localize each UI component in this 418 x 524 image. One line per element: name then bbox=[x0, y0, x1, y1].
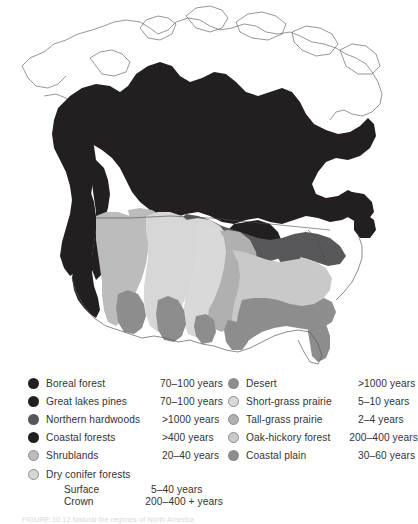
legend-value: >1000 years bbox=[162, 414, 219, 425]
legend-label: Shrublands bbox=[46, 450, 162, 461]
legend-label: Northern hardwoods bbox=[46, 414, 162, 425]
legend-label: Great lakes pines bbox=[46, 396, 160, 407]
legend-item: Great lakes pines 70–100 years bbox=[28, 392, 223, 410]
legend-swatch-shrublands bbox=[28, 450, 39, 461]
legend-value: 70–100 years bbox=[160, 396, 223, 407]
legend-label: Coastal plain bbox=[246, 450, 358, 461]
legend-value: >400 years bbox=[162, 432, 214, 443]
legend-item: Boreal forest 70–100 years bbox=[28, 374, 223, 392]
legend-value: 70–100 years bbox=[160, 378, 223, 389]
legend-item: Short-grass prairie 5–10 years bbox=[228, 392, 418, 410]
legend-sub-item: Crown 200–400 + years bbox=[28, 496, 223, 509]
legend-label: Coastal forests bbox=[46, 432, 162, 443]
legend-value: 2–4 years bbox=[358, 414, 404, 425]
legend-swatch-short-grass-prairie bbox=[228, 396, 239, 407]
legend-label: Short-grass prairie bbox=[246, 396, 358, 407]
legend-column-right: Desert >1000 years Short-grass prairie 5… bbox=[228, 374, 418, 465]
legend-item: Dry conifer forests bbox=[28, 465, 223, 483]
legend-item: Coastal plain 30–60 years bbox=[228, 447, 418, 465]
legend-swatch-tall-grass-prairie bbox=[228, 414, 239, 425]
legend-label: Dry conifer forests bbox=[46, 469, 162, 480]
legend-item: Oak-hickory forest 200–400 years bbox=[228, 429, 418, 447]
legend-sub-label: Crown bbox=[64, 496, 145, 507]
legend-swatch-desert bbox=[228, 378, 239, 389]
legend-swatch-dry-conifer-forests bbox=[28, 469, 39, 480]
legend-item: Northern hardwoods >1000 years bbox=[28, 410, 223, 428]
map-legend: Boreal forest 70–100 years Great lakes p… bbox=[0, 374, 415, 512]
legend-value: 200–400 years bbox=[349, 432, 418, 443]
legend-sub-value: 5–40 years bbox=[151, 484, 202, 495]
legend-item: Coastal forests >400 years bbox=[28, 429, 223, 447]
north-america-map-svg bbox=[0, 0, 415, 372]
legend-item: Tall-grass prairie 2–4 years bbox=[228, 410, 418, 428]
legend-value: 5–10 years bbox=[358, 396, 409, 407]
legend-label: Oak-hickory forest bbox=[246, 432, 349, 443]
legend-column-left: Boreal forest 70–100 years Great lakes p… bbox=[28, 374, 223, 508]
legend-label: Tall-grass prairie bbox=[246, 414, 358, 425]
legend-swatch-coastal-forests bbox=[28, 432, 39, 443]
legend-sub-value: 200–400 + years bbox=[145, 496, 223, 507]
figure-caption: FIGURE 10.12 Natural fire regimes of Nor… bbox=[22, 515, 415, 524]
legend-value: >1000 years bbox=[358, 378, 415, 389]
legend-value: 20–40 years bbox=[162, 450, 219, 461]
legend-swatch-coastal-plain bbox=[228, 450, 239, 461]
legend-swatch-oak-hickory-forest bbox=[228, 432, 239, 443]
legend-sub-item: Surface 5–40 years bbox=[28, 483, 223, 496]
legend-swatch-great-lakes-pines bbox=[28, 396, 39, 407]
legend-swatch-boreal-forest bbox=[28, 378, 39, 389]
legend-label: Desert bbox=[246, 378, 358, 389]
legend-sub-label: Surface bbox=[64, 484, 151, 495]
legend-item: Desert >1000 years bbox=[228, 374, 418, 392]
legend-item: Shrublands 20–40 years bbox=[28, 447, 223, 465]
legend-value: 30–60 years bbox=[358, 450, 415, 461]
legend-label: Boreal forest bbox=[46, 378, 160, 389]
legend-swatch-northern-hardwoods bbox=[28, 414, 39, 425]
map-region bbox=[0, 0, 415, 372]
